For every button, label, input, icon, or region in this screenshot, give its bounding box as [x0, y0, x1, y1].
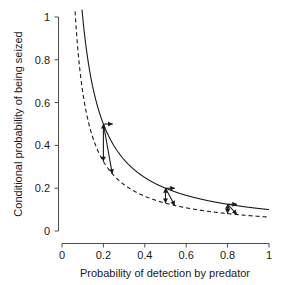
x-tick-label-0.2: 0.2 — [96, 249, 111, 261]
annotation-cluster-2-vertical-head-back — [163, 199, 168, 204]
y-tick-label-0: 0 — [44, 225, 50, 237]
x-tick-label-1: 1 — [266, 249, 272, 261]
y-axis: 0 0.2 0.4 0.6 0.8 1 Conditional probabil… — [12, 11, 59, 237]
y-tick-label-0.4: 0.4 — [35, 139, 50, 151]
x-tick-label-0: 0 — [59, 249, 65, 261]
y-tick-label-0.2: 0.2 — [35, 182, 50, 194]
annotation-cluster-3-vertical-head-back — [225, 209, 230, 214]
annotation-cluster-1-diagonal-line — [103, 124, 112, 174]
annotation-cluster-1-horizontal-head — [108, 122, 113, 127]
annotation-cluster-2-horizontal-head — [170, 186, 175, 191]
lower-curve-dashed — [75, 11, 269, 217]
chart-canvas: 0 0.2 0.4 0.6 0.8 1 Conditional probabil… — [0, 0, 308, 285]
x-tick-label-0.6: 0.6 — [179, 249, 194, 261]
y-tick-label-1: 1 — [44, 11, 50, 23]
annotation-cluster-1-vertical-head-back — [101, 157, 106, 162]
y-axis-title: Conditional probability of being seized — [12, 31, 24, 216]
upper-curve-solid — [82, 10, 269, 210]
y-tick-label-0.6: 0.6 — [35, 97, 50, 109]
chart-figure: 0 0.2 0.4 0.6 0.8 1 Conditional probabil… — [0, 0, 308, 285]
data-curves — [75, 10, 269, 217]
annotation-arrows — [101, 122, 237, 215]
x-axis: 0 0.2 0.4 0.6 0.8 1 Probability of detec… — [59, 244, 272, 280]
x-tick-label-0.8: 0.8 — [220, 249, 235, 261]
x-axis-title: Probability of detection by predator — [80, 267, 250, 279]
y-tick-label-0.8: 0.8 — [35, 54, 50, 66]
x-tick-label-0.4: 0.4 — [137, 249, 152, 261]
